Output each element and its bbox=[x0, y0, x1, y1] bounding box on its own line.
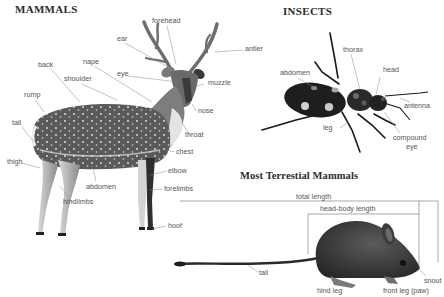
label-leg: leg bbox=[323, 124, 333, 132]
label-tail-mouse: tail bbox=[259, 269, 268, 277]
label-head-body-length: head-body length bbox=[320, 205, 376, 213]
label-abdomen-insect: abdomen bbox=[280, 69, 310, 77]
label-elbow: elbow bbox=[168, 167, 187, 175]
terrestrial-mammals-title: Most Terrestial Mammals bbox=[240, 170, 358, 181]
label-head: head bbox=[383, 66, 399, 74]
label-antenna: antenna bbox=[404, 102, 430, 110]
illustration-canvas bbox=[0, 0, 444, 297]
mouse-illustration bbox=[174, 221, 420, 288]
label-nose: nose bbox=[198, 107, 214, 115]
label-rump: rump bbox=[24, 91, 40, 99]
label-tail: tail bbox=[12, 119, 21, 127]
label-throat: throat bbox=[185, 131, 203, 139]
label-eye: eye bbox=[117, 70, 129, 78]
label-snout: snout bbox=[424, 277, 442, 285]
label-ear: ear bbox=[117, 35, 127, 43]
label-hind-leg: hind leg bbox=[317, 287, 342, 295]
label-front-leg: front leg (paw) bbox=[383, 287, 429, 295]
mammals-section-title: MAMMALS bbox=[15, 3, 78, 15]
label-back: back bbox=[38, 61, 53, 69]
label-hindlimbs: hindlimbs bbox=[63, 198, 93, 206]
label-antler: antler bbox=[245, 45, 263, 53]
label-thigh: thigh bbox=[7, 158, 23, 166]
label-compound-eye-line1: compound bbox=[393, 134, 427, 142]
label-total-length: total length bbox=[296, 193, 331, 201]
label-hoof: hoof bbox=[168, 222, 182, 230]
label-forelimbs: forelimbs bbox=[164, 185, 193, 193]
label-shoulder: shoulder bbox=[64, 75, 92, 83]
label-abdomen-mammal: abdomen bbox=[86, 183, 116, 191]
deer-illustration bbox=[32, 22, 217, 236]
label-chest: chest bbox=[176, 148, 193, 156]
label-compound-eye-line2: eye bbox=[406, 143, 418, 151]
label-forehead: forehead bbox=[152, 17, 180, 25]
label-thorax: thorax bbox=[343, 46, 363, 54]
insects-section-title: INSECTS bbox=[283, 5, 332, 17]
label-muzzle: muzzle bbox=[208, 79, 231, 87]
label-nape: nape bbox=[83, 58, 99, 66]
